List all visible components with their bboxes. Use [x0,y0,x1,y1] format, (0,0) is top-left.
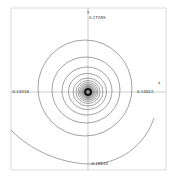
spiral-rings [38,40,132,136]
spiral-outer-arc [11,118,154,164]
y-max-label: 0.17059 [89,15,106,20]
y-axis-name: y [87,9,89,14]
y-min-label: -0.15844 [90,161,108,166]
x-min-label: -0.14418 [11,89,29,94]
x-axis-name: x [158,80,160,85]
x-max-label: 0.14812 [137,89,154,94]
